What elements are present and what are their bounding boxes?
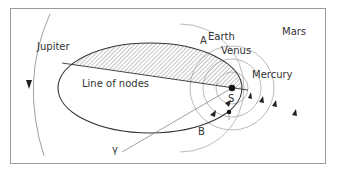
- line-of-nodes-label: Line of nodes: [82, 79, 149, 89]
- node-point: [227, 110, 231, 114]
- earth-direction-arrow: [272, 100, 277, 107]
- jupiter-orbit: [33, 14, 50, 156]
- venus-label: Venus: [221, 46, 251, 56]
- sun-point: [229, 85, 235, 91]
- earth-label: Earth: [208, 32, 235, 42]
- comet-direction-arrow-1: [210, 110, 216, 117]
- jupiter-direction-arrow: [26, 80, 32, 89]
- mercury-direction-arrow: [248, 92, 252, 99]
- sun-label: S: [228, 94, 234, 104]
- point-a-label: A: [200, 36, 207, 46]
- mars-label: Mars: [282, 27, 306, 37]
- mars-direction-arrow: [292, 109, 297, 116]
- diagram-canvas: Jupiter Mars Earth Venus Mercury S A B L…: [0, 0, 339, 174]
- gamma-label: γ: [112, 145, 118, 155]
- jupiter-label: Jupiter: [37, 42, 70, 52]
- mercury-label: Mercury: [252, 70, 293, 80]
- point-b-label: B: [198, 127, 205, 137]
